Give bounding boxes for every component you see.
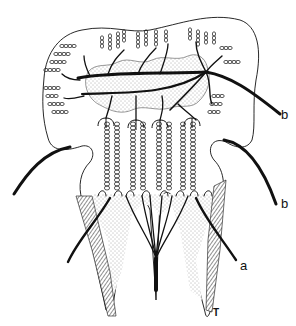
label-b-upper: b [281,108,288,121]
tooth-diagram [0,0,296,326]
pulp-chamber [86,55,210,112]
label-a: a [240,259,247,272]
dentinal-coils [104,122,195,190]
label-b-lower: b [281,197,288,210]
label-t: T [213,308,219,318]
nerve-terminal-tufts [98,118,200,130]
